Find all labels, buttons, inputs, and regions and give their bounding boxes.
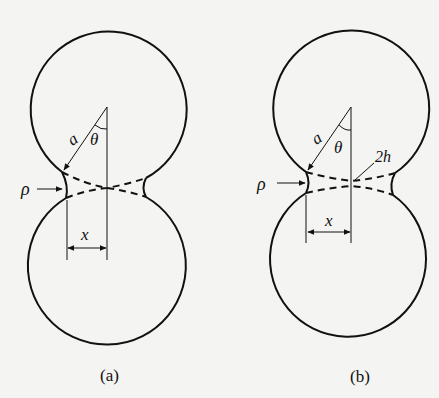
angle-arc-a <box>95 125 107 129</box>
gap-label-b: 2h <box>375 148 391 165</box>
radius-label-b: a <box>308 128 326 148</box>
rho-label-a: ρ <box>20 179 30 199</box>
panel-a: a θ ρ x (a) <box>20 32 187 385</box>
neck-right-surface-a <box>144 178 147 197</box>
x-label-b: x <box>324 211 333 230</box>
radius-label-a: a <box>64 129 82 149</box>
dashed-bottom-sphere-b <box>306 186 393 195</box>
neck-left-surface-a <box>62 172 67 198</box>
rho-label-b: ρ <box>256 174 266 194</box>
angle-label-a: θ <box>90 130 98 149</box>
angle-label-b: θ <box>334 138 342 157</box>
caption-a: (a) <box>100 366 119 385</box>
panel-b: a θ 2h ρ x (b) <box>256 30 429 386</box>
dashed-top-sphere-a <box>62 172 146 197</box>
neck-right-surface-b <box>391 173 395 195</box>
top-sphere-a <box>31 32 187 178</box>
angle-arc-b <box>339 125 351 130</box>
sintering-two-sphere-diagram: a θ ρ x (a) a θ 2h ρ x (b) <box>0 0 439 398</box>
caption-b: (b) <box>350 367 370 386</box>
dashed-bottom-sphere-a <box>66 178 146 198</box>
neck-left-surface-b <box>306 172 309 193</box>
bottom-sphere-b <box>270 193 426 337</box>
x-label-a: x <box>80 225 89 244</box>
